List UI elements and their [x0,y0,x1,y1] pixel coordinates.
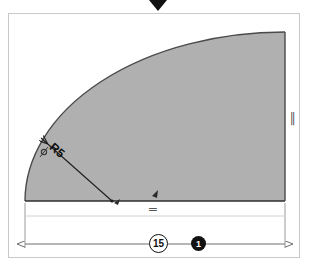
width-dimension-badge[interactable]: 1 [191,236,206,251]
vertical-constraint-icon[interactable]: ║ [289,113,296,124]
profile-fill [25,32,285,201]
sketch-viewport: R5 15 1 ═ ║ [0,0,313,275]
profile-shape[interactable] [25,32,285,201]
width-dimension-circled-value[interactable]: 15 [149,234,168,253]
arc-center-point[interactable] [110,199,113,202]
horizontal-constraint-icon[interactable]: ═ [149,204,157,215]
